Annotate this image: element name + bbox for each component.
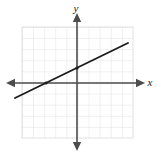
x-axis-right-arrow-icon (136, 79, 145, 87)
x-intercept-point (44, 81, 47, 84)
y-axis-bottom-arrow-icon (73, 142, 81, 151)
y-axis-label: y (73, 2, 79, 14)
y-axis-top-arrow-icon (73, 13, 81, 22)
coordinate-plane-figure: x y (0, 0, 158, 158)
y-intercept-point (75, 66, 78, 69)
graph-canvas: x y (0, 0, 158, 158)
x-axis-label: x (147, 76, 153, 88)
x-axis-left-arrow-icon (6, 79, 15, 87)
